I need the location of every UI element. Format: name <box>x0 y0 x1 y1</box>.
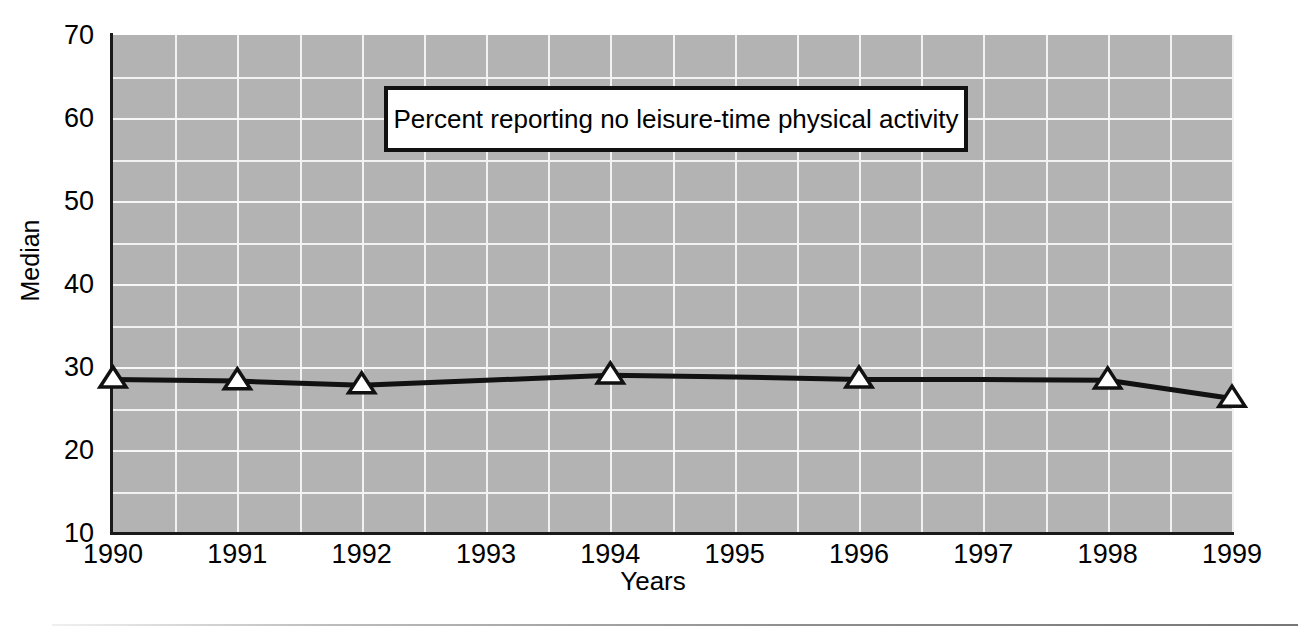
x-axis-title: Years <box>593 568 713 594</box>
chart-title-box: Percent reporting no leisure-time physic… <box>384 86 968 152</box>
x-axis-tick-label: 1990 <box>53 541 173 568</box>
x-axis-tick-label: 1995 <box>675 541 795 568</box>
gridline-horizontal <box>113 201 1232 203</box>
gridline-horizontal <box>113 243 1232 245</box>
chart-figure: 70605040302010 1990199119921993199419951… <box>0 0 1306 633</box>
gridline-horizontal <box>113 284 1232 286</box>
gridline-horizontal <box>113 77 1232 79</box>
gridline-horizontal <box>113 367 1232 369</box>
y-axis-tick-label: 30 <box>34 354 94 381</box>
footer-rule <box>52 624 1298 626</box>
gridline-horizontal <box>113 160 1232 162</box>
x-axis-tick-label: 1991 <box>177 541 297 568</box>
gridline-vertical <box>1232 35 1234 533</box>
y-axis-tick-label: 70 <box>34 22 94 49</box>
x-axis-tick-label: 1994 <box>550 541 670 568</box>
y-axis-tick-label: 60 <box>34 105 94 132</box>
gridline-horizontal <box>113 326 1232 328</box>
x-axis-line <box>110 532 1234 535</box>
y-axis-line <box>110 33 113 535</box>
x-axis-tick-label: 1998 <box>1048 541 1168 568</box>
x-axis-tick-label: 1997 <box>923 541 1043 568</box>
x-axis-tick-label: 1996 <box>799 541 919 568</box>
chart-title-text: Percent reporting no leisure-time physic… <box>393 104 958 134</box>
y-axis-tick-label: 20 <box>34 437 94 464</box>
gridline-horizontal <box>113 450 1232 452</box>
gridline-horizontal <box>113 409 1232 411</box>
gridline-horizontal <box>113 492 1232 494</box>
y-axis-title: Median <box>18 191 43 331</box>
x-axis-tick-label: 1993 <box>426 541 546 568</box>
x-axis-tick-label: 1999 <box>1172 541 1292 568</box>
x-axis-tick-label: 1992 <box>302 541 422 568</box>
y-axis-tick-label: 50 <box>34 188 94 215</box>
